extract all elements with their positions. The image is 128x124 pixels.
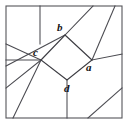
subdivision-line-group (6, 6, 122, 118)
vertex-label-a: a (86, 62, 92, 73)
segment-c-to-lower-left-edge (6, 60, 41, 88)
segment-b-to-top-edge (65, 6, 93, 35)
vertex-label-c: c (33, 47, 38, 58)
figure-container: abcd (0, 0, 128, 124)
segment-a-to-right-edge (92, 54, 122, 60)
figure-border-frame (6, 6, 122, 118)
vertex-label-d: d (64, 83, 70, 94)
segment-bottom-right-diagonal (88, 88, 122, 118)
segment-a-to-top-right-edge (92, 6, 115, 60)
vertex-label-b: b (57, 22, 63, 33)
figure-canvas (0, 0, 128, 124)
central-quadrilateral (41, 35, 92, 80)
segment-c-to-bottom-edge (13, 60, 41, 118)
